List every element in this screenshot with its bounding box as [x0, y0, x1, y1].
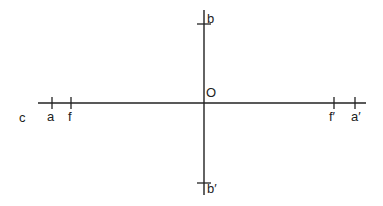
axes-drawing [0, 0, 383, 206]
label-b: b [207, 12, 214, 25]
label-f-prime: f′ [329, 110, 335, 123]
label-c: c [19, 111, 26, 124]
label-a-prime: a′ [351, 110, 361, 123]
label-a: a [47, 110, 54, 123]
label-f: f [68, 110, 72, 123]
diagram-canvas: c a f f′ a′ O b b′ [0, 0, 383, 206]
label-origin: O [206, 86, 216, 99]
label-b-prime: b′ [207, 182, 217, 195]
